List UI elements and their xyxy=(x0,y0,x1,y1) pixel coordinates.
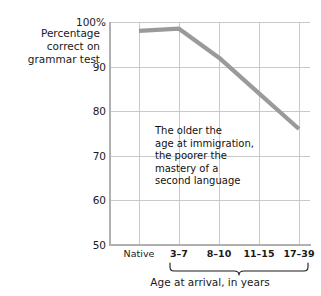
plot-area: The older the age at immigration, the po… xyxy=(110,22,310,245)
y-tick-label-90: 90 xyxy=(66,62,106,73)
x-axis-caption: Age at arrival, in years xyxy=(110,276,310,288)
chart-annotation: The older the age at immigration, the po… xyxy=(155,125,254,188)
y-axis-tick-labels: 100% 90 80 70 60 50 xyxy=(64,22,106,245)
x-axis-brace xyxy=(110,262,310,276)
y-tick-label-60: 60 xyxy=(66,195,106,206)
annotation-line-2: age at immigration, xyxy=(155,138,254,151)
annotation-line-5: second language xyxy=(155,175,254,188)
annotation-line-1: The older the xyxy=(155,125,254,138)
x-tick-label-17-39: 17–39 xyxy=(269,248,321,260)
y-tick-label-100: 100% xyxy=(66,17,106,28)
y-tick-label-50: 50 xyxy=(66,240,106,251)
y-tick-label-80: 80 xyxy=(66,106,106,117)
annotation-line-4: mastery of a xyxy=(155,163,254,176)
grammar-test-line-chart: Percentage correct on grammar test 100% … xyxy=(0,0,321,296)
y-tick-label-70: 70 xyxy=(66,151,106,162)
brace-glyph xyxy=(110,262,310,276)
annotation-line-3: the poorer the xyxy=(155,150,254,163)
